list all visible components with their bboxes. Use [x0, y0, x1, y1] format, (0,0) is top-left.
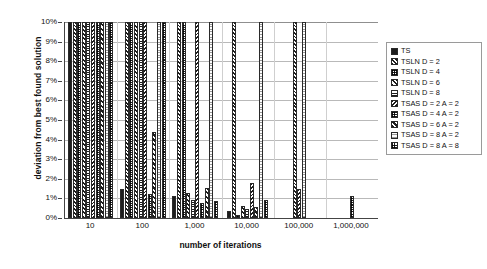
x-tick-label: 100,000 — [273, 221, 325, 235]
legend-label: TSAS D = 8 A = 8 — [401, 142, 459, 150]
y-tick-label: 8% — [45, 57, 57, 65]
bar — [264, 200, 268, 218]
legend-label: TSLN D = 8 — [401, 89, 440, 97]
bar — [200, 203, 204, 218]
y-tick-mark — [58, 120, 62, 121]
y-tick-mark — [58, 159, 62, 160]
bar — [214, 201, 218, 218]
bar-group — [117, 22, 169, 218]
y-tick-label: 9% — [45, 38, 57, 46]
y-tick-mark — [58, 218, 62, 219]
legend-label: TSLN D = 6 — [401, 79, 440, 87]
bar-group — [222, 22, 274, 218]
bar — [120, 189, 124, 218]
y-tick-mark — [58, 179, 62, 180]
bar — [73, 22, 77, 218]
bar — [250, 183, 254, 218]
legend-swatch — [391, 69, 398, 76]
legend-swatch — [391, 100, 398, 107]
x-tick-label: 10 — [64, 221, 116, 235]
legend-item[interactable]: TSAS D = 6 A = 2 — [391, 121, 478, 129]
legend-item[interactable]: TSLN D = 8 — [391, 89, 478, 97]
bar — [236, 215, 240, 218]
bar — [129, 22, 133, 218]
bar — [182, 22, 186, 218]
y-tick-mark — [58, 61, 62, 62]
legend-item[interactable]: TSAS D = 4 A = 2 — [391, 110, 478, 118]
y-tick-mark — [58, 42, 62, 43]
bar — [205, 188, 209, 218]
legend-label: TSLN D = 2 — [401, 58, 440, 66]
y-tick-label: 7% — [45, 77, 57, 85]
x-tick-label: 10,000 — [221, 221, 273, 235]
legend-item[interactable]: TSLN D = 4 — [391, 68, 478, 76]
bar — [254, 207, 258, 218]
bar — [191, 200, 195, 218]
y-tick-mark — [58, 140, 62, 141]
legend-swatch — [391, 111, 398, 118]
bar — [68, 22, 72, 218]
bar — [293, 22, 297, 218]
bar — [195, 22, 199, 218]
bar-group — [274, 22, 326, 218]
bar — [162, 22, 166, 218]
y-tick-mark — [58, 81, 62, 82]
legend-item[interactable]: TSLN D = 6 — [391, 79, 478, 87]
legend: TSTSLN D = 2TSLN D = 4TSLN D = 6TSLN D =… — [386, 42, 482, 155]
x-tick-label: 100 — [116, 221, 168, 235]
bar — [109, 22, 113, 218]
legend-swatch — [391, 48, 398, 55]
y-tick-mark — [58, 22, 62, 23]
bar — [186, 193, 190, 218]
legend-swatch — [391, 58, 398, 65]
y-axis-tick-labels: 10%9%8%7%6%5%4%3%2%1%0% — [0, 22, 62, 218]
bar — [100, 22, 104, 218]
y-tick-label: 10% — [41, 18, 57, 26]
bar-group — [169, 22, 221, 218]
bar — [245, 209, 249, 218]
bar — [157, 22, 161, 218]
bar — [152, 132, 156, 218]
legend-swatch — [391, 142, 398, 149]
bar — [105, 22, 109, 218]
y-tick-label: 3% — [45, 155, 57, 163]
bar — [297, 189, 301, 218]
y-tick-mark — [58, 198, 62, 199]
bar — [241, 206, 245, 218]
legend-label: TSAS D = 6 A = 2 — [401, 121, 459, 129]
bar — [227, 211, 231, 218]
x-axis-title: number of iterations — [64, 240, 377, 250]
legend-swatch — [391, 79, 398, 86]
bar — [134, 22, 138, 218]
bar — [302, 22, 306, 218]
bar — [143, 22, 147, 218]
legend-label: TS — [401, 47, 410, 55]
legend-item[interactable]: TSLN D = 2 — [391, 58, 478, 66]
legend-swatch — [391, 121, 398, 128]
bar — [82, 22, 86, 218]
bar — [350, 196, 354, 218]
bar-group — [65, 22, 117, 218]
y-tick-label: 0% — [45, 214, 57, 222]
legend-item[interactable]: TSAS D = 8 A = 8 — [391, 142, 478, 150]
legend-item[interactable]: TS — [391, 47, 478, 55]
y-tick-label: 6% — [45, 96, 57, 104]
bar — [232, 22, 236, 218]
bar — [259, 22, 263, 218]
y-tick-mark — [58, 100, 62, 101]
y-tick-label: 4% — [45, 136, 57, 144]
bar — [148, 194, 152, 218]
legend-label: TSLN D = 4 — [401, 68, 440, 76]
x-tick-label: 1,000,000 — [325, 221, 377, 235]
legend-swatch — [391, 90, 398, 97]
plot-area — [64, 22, 378, 219]
legend-label: TSAS D = 8 A = 2 — [401, 131, 459, 139]
x-axis-tick-labels: 101001,00010,000100,0001,000,000 — [64, 221, 377, 235]
bar-group — [326, 22, 378, 218]
legend-item[interactable]: TSAS D = 8 A = 2 — [391, 131, 478, 139]
bar — [139, 22, 143, 218]
y-tick-label: 2% — [45, 175, 57, 183]
legend-item[interactable]: TSAS D = 2 A = 2 — [391, 100, 478, 108]
x-tick-label: 1,000 — [168, 221, 220, 235]
y-tick-label: 5% — [45, 116, 57, 124]
